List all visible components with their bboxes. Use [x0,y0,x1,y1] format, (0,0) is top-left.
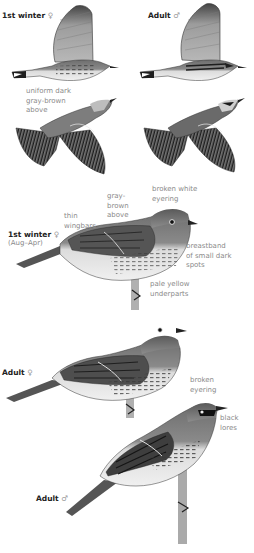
note-black-lores: black lores [220,414,239,433]
label-date-range: (Aug–Apr) [8,239,59,247]
male-symbol-icon: ♂ [173,11,180,20]
note-gray-brown-above: gray- brown above [107,192,129,221]
field-guide-plate: 1st winter ♀ Adult ♂ 1st winter ♀ (Aug–A… [0,0,254,553]
bird-perched-adult-female [6,328,187,418]
bird-flight-downstroke-adult-male [144,98,245,172]
female-symbol-icon: ♀ [54,230,60,239]
illustrations [0,0,254,553]
note-breastband: breastband of small dark spots [186,242,232,271]
label-flight-adult-male: Adult ♂ [148,11,180,20]
label-perched-1st-winter-female: 1st winter ♀ (Aug–Apr) [8,230,59,247]
label-text: 1st winter [8,230,51,239]
note-pale-yellow-underparts: pale yellow underparts [150,280,190,299]
label-text: Adult [148,11,171,20]
label-perched-adult-male: Adult ♂ [36,494,68,503]
label-text: Adult [36,494,59,503]
label-perched-adult-female: Adult ♀ [2,368,33,377]
bird-perched-adult-male [66,403,228,544]
note-uniform-dark-gray-brown-above: uniform dark gray-brown above [26,87,71,116]
female-symbol-icon: ♀ [48,11,54,20]
note-broken-white-eyering: broken white eyering [152,185,197,204]
label-flight-1st-winter-female: 1st winter ♀ [2,11,53,20]
note-broken-eyering: broken eyering [190,376,216,395]
label-text: 1st winter [2,11,45,20]
label-text: Adult [2,368,25,377]
female-symbol-icon: ♀ [27,368,33,377]
male-symbol-icon: ♂ [61,494,68,503]
note-thin-wingbars: thin wingbars [64,212,96,231]
